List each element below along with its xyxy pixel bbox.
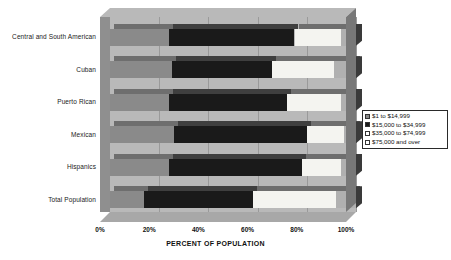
plot-left-face xyxy=(100,17,110,212)
y-axis-label-text: Central and South American xyxy=(12,33,96,40)
legend: $1 to $14,999 $15,000 to $34,999 $35,000… xyxy=(362,110,448,149)
legend-label-0: $1 to $14,999 xyxy=(372,112,410,121)
bar-segment xyxy=(169,29,294,46)
bar-end-cap xyxy=(356,56,362,78)
gridline-60 xyxy=(258,17,259,212)
bar-segment xyxy=(272,61,334,78)
legend-item-1: $15,000 to $34,999 xyxy=(365,121,445,130)
bar-segment xyxy=(169,94,287,111)
bar-segment xyxy=(110,61,172,78)
bar-segment xyxy=(253,191,337,208)
bar-segment xyxy=(287,94,341,111)
x-axis-title-text: PERCENT OF POPULATION xyxy=(166,240,265,247)
x-axis-tick-40: 40% xyxy=(192,226,205,233)
bar-segment xyxy=(110,94,169,111)
y-axis-label-3: Mexican xyxy=(71,131,96,138)
plot-background xyxy=(110,17,357,212)
bar-segment xyxy=(174,126,307,143)
x-axis-title: PERCENT OF POPULATION xyxy=(0,240,451,247)
x-axis-tick-100: 100% xyxy=(338,226,355,233)
x-axis-tick-0: 0% xyxy=(95,226,104,233)
bar-segment xyxy=(110,159,169,176)
bar-end-cap xyxy=(356,154,362,176)
y-axis-label-text: Total Population xyxy=(48,196,96,203)
y-axis-label-5: Total Population xyxy=(48,196,96,203)
y-axis-label-text: Cuban xyxy=(76,66,96,73)
legend-label-1: $15,000 to $34,999 xyxy=(372,121,425,130)
bar-row xyxy=(110,191,356,208)
bar-segment xyxy=(144,191,252,208)
bar-row xyxy=(110,61,356,78)
plot-area xyxy=(100,8,356,220)
bar-segment xyxy=(307,126,344,143)
legend-item-2: $35,000 to $74,999 xyxy=(365,129,445,138)
y-axis-label-text: Mexican xyxy=(71,131,96,138)
gridline-100 xyxy=(356,17,357,212)
gridline-20 xyxy=(159,17,160,212)
bar-row xyxy=(110,126,356,143)
stacked-bar-chart: Central and South AmericanCubanPuerto Ri… xyxy=(0,0,451,260)
legend-swatch-icon-2 xyxy=(365,131,370,136)
bar-row xyxy=(110,159,356,176)
y-axis-label-text: Puerto Rican xyxy=(57,98,96,105)
gridline-80 xyxy=(307,17,308,212)
bar-segment xyxy=(169,159,302,176)
y-axis-label-0: Central and South American xyxy=(12,33,96,40)
bar-end-cap xyxy=(356,24,362,46)
bar-segment xyxy=(295,29,342,46)
y-axis-label-2: Puerto Rican xyxy=(57,98,96,105)
x-axis-tick-80: 80% xyxy=(290,226,303,233)
y-axis-label-text: Hispanics xyxy=(67,163,96,170)
legend-swatch-icon-1 xyxy=(365,122,370,127)
bar-segment xyxy=(172,61,273,78)
x-axis-tick-20: 20% xyxy=(143,226,156,233)
bar-segment xyxy=(110,191,144,208)
legend-swatch-icon-3 xyxy=(365,140,370,145)
legend-label-2: $35,000 to $74,999 xyxy=(372,129,425,138)
bar-end-cap xyxy=(356,89,362,111)
plot-right-face xyxy=(346,8,356,212)
y-axis-label-4: Hispanics xyxy=(67,163,96,170)
y-axis-label-1: Cuban xyxy=(76,66,96,73)
legend-item-3: $75,000 and over xyxy=(365,138,445,147)
bar-segment xyxy=(302,159,341,176)
plot-bottom-apron xyxy=(100,212,356,222)
bar-end-cap xyxy=(356,186,362,208)
x-axis-tick-60: 60% xyxy=(241,226,254,233)
bar-row xyxy=(110,29,356,46)
plot-top-face xyxy=(100,8,356,17)
legend-swatch-icon-0 xyxy=(365,114,370,119)
bar-segment xyxy=(110,126,174,143)
legend-item-0: $1 to $14,999 xyxy=(365,112,445,121)
legend-label-3: $75,000 and over xyxy=(372,138,420,147)
bar-segment xyxy=(110,29,169,46)
gridline-40 xyxy=(208,17,209,212)
bar-row xyxy=(110,94,356,111)
